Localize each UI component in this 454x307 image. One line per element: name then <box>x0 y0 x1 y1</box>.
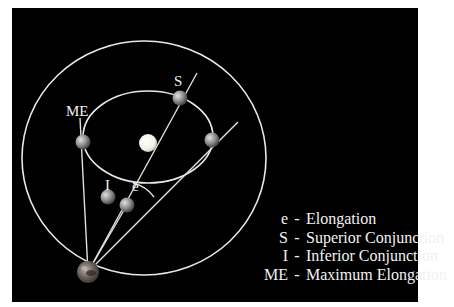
legend-text: Superior Conjunction <box>306 229 444 248</box>
legend-key: I <box>244 247 288 266</box>
planet-max-elongation <box>76 135 91 150</box>
planet-superior-conjunction <box>173 91 188 106</box>
legend-separator: - <box>288 247 306 266</box>
legend-separator: - <box>288 266 306 285</box>
label-max-elongation: ME <box>66 103 89 119</box>
outer-orbit <box>22 41 266 275</box>
legend-item-inferior-conjunction: I - Inferior Conjunction <box>244 247 447 266</box>
label-inferior-conjunction: I <box>105 177 110 193</box>
planet-elongation <box>120 198 135 213</box>
earth <box>77 261 99 283</box>
legend-text: Inferior Conjunction <box>306 247 438 266</box>
label-superior-conjunction: S <box>174 73 182 89</box>
legend-text: Maximum Elongation <box>306 266 447 285</box>
legend-key: ME <box>244 266 288 285</box>
legend-item-maximum-elongation: ME - Maximum Elongation <box>244 266 447 285</box>
legend-key: e <box>244 210 288 229</box>
sun <box>139 134 157 152</box>
legend-item-superior-conjunction: S - Superior Conjunction <box>244 229 447 248</box>
planet-right <box>205 133 220 148</box>
legend: e - Elongation S - Superior Conjunction … <box>244 210 447 284</box>
legend-item-elongation: e - Elongation <box>244 210 447 229</box>
legend-key: S <box>244 229 288 248</box>
legend-text: Elongation <box>306 210 376 229</box>
label-elongation-angle: e <box>132 178 139 194</box>
legend-separator: - <box>288 229 306 248</box>
legend-separator: - <box>288 210 306 229</box>
